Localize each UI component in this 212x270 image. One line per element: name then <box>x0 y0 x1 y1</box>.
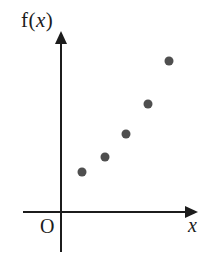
origin-label: O <box>40 215 54 238</box>
y-axis-arrow-icon <box>55 31 67 44</box>
x-axis <box>23 211 188 213</box>
data-point <box>122 129 131 138</box>
data-point <box>101 153 110 162</box>
scatter-plot-figure: f(x) O x <box>0 0 212 270</box>
y-axis-label: f(x) <box>21 8 53 33</box>
y-axis-label-prefix: f( <box>21 8 36 32</box>
data-point <box>144 99 153 108</box>
y-axis <box>60 40 62 252</box>
y-axis-label-variable: x <box>36 8 46 32</box>
data-point <box>77 168 86 177</box>
data-point <box>165 56 174 65</box>
y-axis-label-suffix: ) <box>46 8 54 32</box>
x-axis-label: x <box>188 214 197 237</box>
